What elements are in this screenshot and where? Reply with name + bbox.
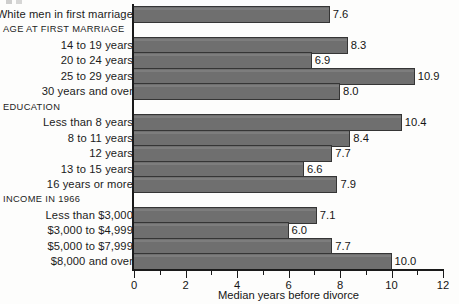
- bar-row: 16 years or more7.9: [0, 176, 459, 193]
- x-tick-minor: [160, 271, 161, 275]
- bar-row: 8 to 11 years8.4: [0, 130, 459, 147]
- x-axis-title: Median years before divorce: [133, 289, 444, 301]
- bar: [133, 222, 289, 239]
- bar-row-label: 25 to 29 years: [61, 68, 133, 85]
- bar-row: 12 years7.7: [0, 145, 459, 162]
- bar-row: 30 years and over8.0: [0, 83, 459, 100]
- bar-row: $5,000 to $7,9997.7: [0, 238, 459, 255]
- x-tick-minor: [263, 271, 264, 275]
- bar-value-label: 10.9: [418, 68, 440, 85]
- x-tick-major: [340, 271, 341, 278]
- bar-row-label: 12 years: [89, 145, 133, 162]
- bar-value-label: 8.0: [343, 83, 359, 100]
- y-axis-line: [132, 4, 134, 270]
- bar-value-label: 10.4: [405, 114, 427, 131]
- bar-value-label: 7.1: [320, 207, 336, 224]
- category-header-row: EDUCATION: [0, 99, 459, 116]
- x-tick-major: [186, 271, 187, 278]
- bar-row-label: 20 to 24 years: [61, 52, 133, 69]
- bar-chart: White men in first marriage7.6AGE AT FIR…: [0, 0, 459, 304]
- bar-value-label: 10.0: [395, 253, 417, 270]
- bar-row-label: $5,000 to $7,999: [47, 238, 133, 255]
- bar: [133, 145, 332, 162]
- x-tick-major: [443, 271, 444, 278]
- bar: [133, 6, 330, 23]
- bar-value-label: 6.6: [307, 161, 323, 178]
- bar-value-label: 6.0: [292, 222, 308, 239]
- category-header-label: INCOME IN 1966: [3, 191, 80, 208]
- bar-row-label: 8 to 11 years: [68, 130, 133, 147]
- bar: [133, 253, 392, 270]
- bar-value-label: 8.3: [351, 37, 367, 54]
- bar-row-label: Less than $3,000: [46, 207, 133, 224]
- x-tick-minor: [417, 271, 418, 275]
- bar: [133, 68, 415, 85]
- bar: [133, 114, 402, 131]
- x-tick-minor: [366, 271, 367, 275]
- x-tick-minor: [314, 271, 315, 275]
- bar-value-label: 7.7: [335, 238, 351, 255]
- bar-row-label: 13 to 15 years: [61, 161, 133, 178]
- bar-row: 20 to 24 years6.9: [0, 52, 459, 69]
- bar-row-label: Less than 8 years: [43, 114, 133, 131]
- bar-row-label: 30 years and over: [42, 83, 133, 100]
- x-tick-major: [237, 271, 238, 278]
- bar-row-label: $8,000 and over: [51, 253, 133, 270]
- bar-row: 25 to 29 years10.9: [0, 68, 459, 85]
- bar-value-label: 7.6: [333, 6, 349, 23]
- bar: [133, 161, 304, 178]
- bar-row: 14 to 19 years8.3: [0, 37, 459, 54]
- bar-value-label: 7.7: [335, 145, 351, 162]
- bar-value-label: 8.4: [353, 130, 369, 147]
- x-tick-major: [134, 271, 135, 278]
- bar-row: $8,000 and over10.0: [0, 253, 459, 270]
- category-header-label: AGE AT FIRST MARRIAGE: [3, 21, 125, 38]
- bar-row-label: $3,000 to $4,999: [47, 222, 133, 239]
- bar-row: $3,000 to $4,9996.0: [0, 222, 459, 239]
- bar: [133, 176, 337, 193]
- bar: [133, 83, 340, 100]
- category-header-row: AGE AT FIRST MARRIAGE: [0, 21, 459, 38]
- bar-row-label: 16 years or more: [47, 176, 133, 193]
- bar: [133, 207, 317, 224]
- bar: [133, 130, 350, 147]
- bar-value-label: 7.9: [340, 176, 356, 193]
- bar-row-label: White men in first marriage: [0, 6, 133, 23]
- bar-row: 13 to 15 years6.6: [0, 161, 459, 178]
- bar-row: White men in first marriage7.6: [0, 6, 459, 23]
- bar: [133, 52, 312, 69]
- bar-row: Less than $3,0007.1: [0, 207, 459, 224]
- bar: [133, 37, 348, 54]
- bar-row-label: 14 to 19 years: [61, 37, 133, 54]
- bar-row: Less than 8 years10.4: [0, 114, 459, 131]
- x-tick-minor: [211, 271, 212, 275]
- category-header-row: INCOME IN 1966: [0, 191, 459, 208]
- x-tick-major: [392, 271, 393, 278]
- x-tick-major: [289, 271, 290, 278]
- category-header-label: EDUCATION: [3, 99, 60, 116]
- page-edge-artifact: [6, 0, 32, 4]
- bar: [133, 238, 332, 255]
- bar-value-label: 6.9: [315, 52, 331, 69]
